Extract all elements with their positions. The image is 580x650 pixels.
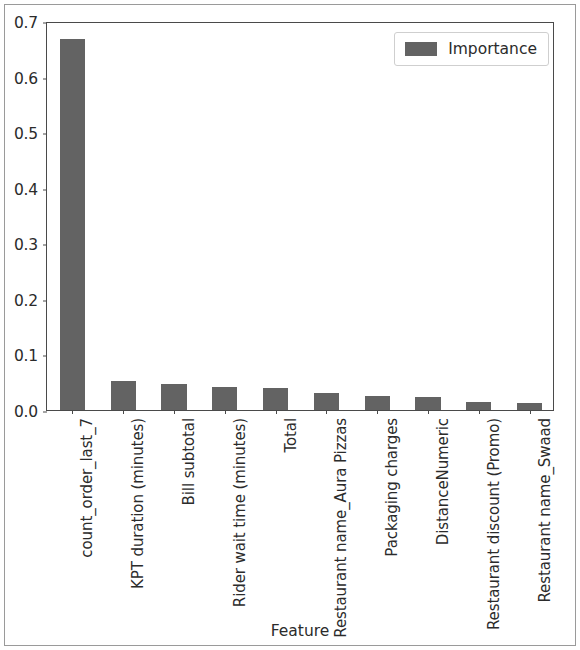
x-tick-mark xyxy=(72,410,73,414)
bar xyxy=(517,403,542,410)
figure-canvas: 0.00.10.20.30.40.50.60.7 count_order_las… xyxy=(4,4,576,646)
x-tick-label: Total xyxy=(282,418,300,453)
bar xyxy=(263,388,288,410)
y-tick-label: 0.3 xyxy=(14,236,47,254)
bar xyxy=(60,39,85,410)
x-tick-label: KPT duration (minutes) xyxy=(129,418,147,589)
legend-label-importance: Importance xyxy=(448,40,537,58)
x-tick-mark xyxy=(123,410,124,414)
x-tick-mark xyxy=(326,410,327,414)
y-tick-label: 0.6 xyxy=(14,70,47,88)
x-tick-mark xyxy=(377,410,378,414)
bar xyxy=(212,387,237,410)
x-tick-mark xyxy=(530,410,531,414)
x-tick-label: Restaurant discount (Promo) xyxy=(485,418,503,630)
x-tick-label: Restaurant name_Aura Pizzas xyxy=(332,418,350,638)
x-tick-label: count_order_last_7 xyxy=(78,418,96,558)
bar xyxy=(466,402,491,410)
x-axis-title: Feature xyxy=(46,622,554,640)
x-tick-label: Packaging charges xyxy=(383,418,401,557)
x-tick-mark xyxy=(174,410,175,414)
bar xyxy=(365,396,390,410)
bar xyxy=(415,397,440,410)
chart-legend: Importance xyxy=(394,32,549,66)
bar xyxy=(161,384,186,410)
bar xyxy=(111,381,136,410)
x-tick-label: Rider wait time (minutes) xyxy=(231,418,249,607)
x-tick-label: Restaurant name_Swaad xyxy=(536,418,554,603)
x-tick-label: Bill subtotal xyxy=(180,418,198,505)
legend-swatch-importance xyxy=(405,42,437,56)
bar xyxy=(314,393,339,410)
x-tick-label: DistanceNumeric xyxy=(434,418,452,545)
y-tick-label: 0.4 xyxy=(14,181,47,199)
y-tick-label: 0.7 xyxy=(14,14,47,32)
y-tick-label: 0.0 xyxy=(14,403,47,421)
y-tick-label: 0.1 xyxy=(14,347,47,365)
x-tick-mark xyxy=(225,410,226,414)
x-tick-mark xyxy=(479,410,480,414)
x-tick-mark xyxy=(428,410,429,414)
y-tick-label: 0.5 xyxy=(14,125,47,143)
y-tick-label: 0.2 xyxy=(14,292,47,310)
plot-area: 0.00.10.20.30.40.50.60.7 count_order_las… xyxy=(46,22,554,411)
x-tick-mark xyxy=(276,410,277,414)
